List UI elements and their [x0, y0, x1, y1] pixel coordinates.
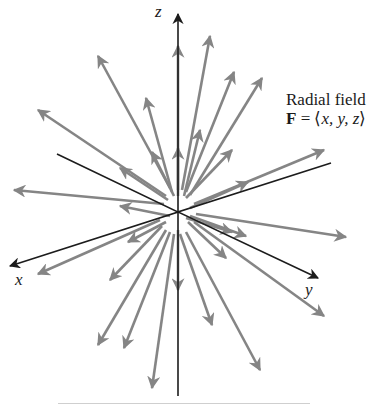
z-axis-label: z — [155, 2, 162, 22]
formula-equals: = ⟨ — [296, 109, 321, 128]
field-vector — [14, 190, 164, 204]
field-vector — [190, 78, 262, 195]
field-vector — [38, 110, 166, 196]
field-vector — [194, 222, 324, 316]
field-formula: F = ⟨x, y, z⟩ — [286, 109, 366, 128]
x-axis-label: x — [15, 270, 23, 290]
y-axis-label: y — [305, 280, 313, 300]
radial-field-diagram: z x y Radial field F = ⟨x, y, z⟩ — [0, 0, 388, 409]
field-vector — [152, 234, 174, 388]
coordinate-axes — [10, 14, 331, 396]
bottom-rule — [58, 403, 310, 404]
formula-vars: x, y, z — [321, 109, 359, 128]
field-title-line1: Radial field — [286, 90, 366, 109]
vector-field-plot — [0, 0, 388, 409]
field-title: Radial field F = ⟨x, y, z⟩ — [286, 90, 366, 128]
field-vector — [186, 232, 260, 370]
field-vector — [146, 98, 172, 192]
field-vector — [120, 206, 170, 216]
field-vector — [180, 234, 212, 325]
field-symbol: F — [286, 109, 296, 128]
formula-close: ⟩ — [359, 109, 366, 128]
